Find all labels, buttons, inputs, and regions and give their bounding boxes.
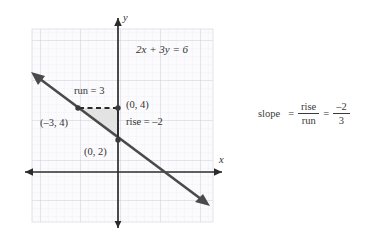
point-label-minus3-4: (–3, 4) xyxy=(40,118,68,129)
fraction-denominator-run: run xyxy=(299,115,319,126)
rise-over-run-fraction: rise run xyxy=(298,101,319,126)
slope-figure: x y 2x + 3y = 6 run = 3 rise = –2 (–3, 4… xyxy=(0,0,365,236)
y-axis-label: y xyxy=(123,13,128,24)
slope-word: slope xyxy=(258,108,284,119)
slope-value-fraction-bar xyxy=(333,113,350,114)
equation-label: 2x + 3y = 6 xyxy=(136,44,188,55)
fraction-bar xyxy=(298,113,319,114)
point-0-4 xyxy=(115,105,120,110)
x-axis-label: x xyxy=(219,155,224,166)
slope-equals-first: = xyxy=(284,108,298,119)
slope-value-fraction: –2 3 xyxy=(333,101,350,126)
point-minus3-4 xyxy=(75,105,80,110)
point-0-2 xyxy=(115,137,120,142)
rise-label: rise = –2 xyxy=(126,117,163,128)
run-label: run = 3 xyxy=(74,86,104,97)
slope-formula: slope = rise run = –2 3 xyxy=(258,101,350,126)
slope-value-denominator: 3 xyxy=(336,115,347,126)
point-label-0-4: (0, 4) xyxy=(126,100,149,111)
point-label-0-2: (0, 2) xyxy=(84,147,107,158)
slope-equals-second: = xyxy=(319,108,333,119)
fraction-numerator-rise: rise xyxy=(298,101,319,112)
slope-value-numerator: –2 xyxy=(333,101,350,112)
